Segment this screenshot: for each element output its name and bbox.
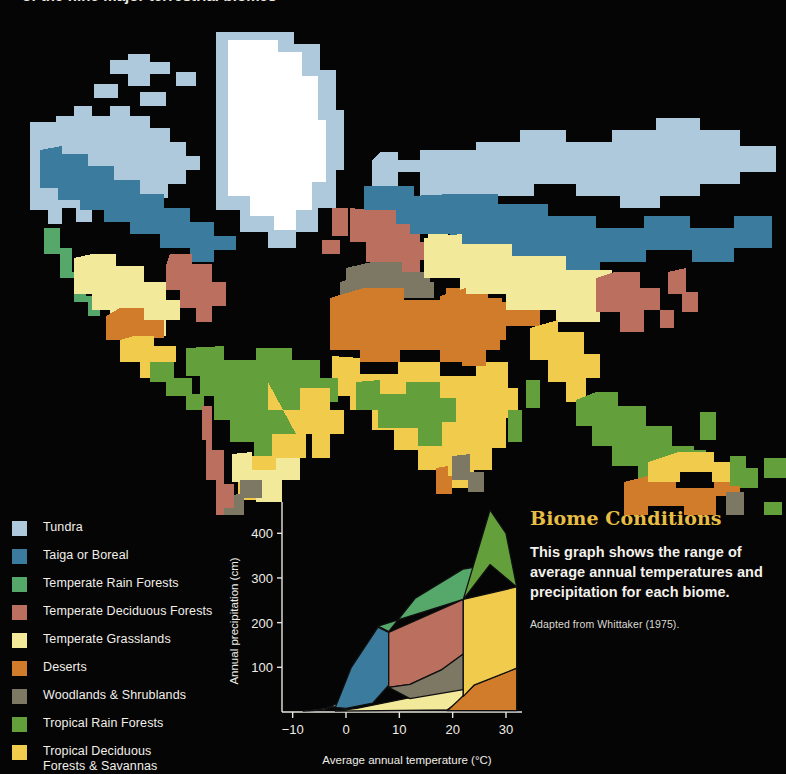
panel-title: Biome Conditions [530, 508, 780, 529]
panel-source-note: Adapted from Whittaker (1975). [530, 618, 780, 630]
legend-swatch-temperate-deciduous-forests [12, 605, 27, 620]
chart-biome-polygons [303, 510, 516, 711]
legend-item-deserts[interactable]: Deserts [10, 658, 242, 686]
legend-item-temperate-deciduous-forests[interactable]: Temperate Deciduous Forests [10, 602, 242, 630]
chart-y-axis-label: Annual precipitation (cm) [228, 557, 240, 684]
legend-swatch-deserts [12, 661, 27, 676]
chart-x-tick-label: 10 [392, 722, 406, 737]
biome-conditions-panel: Biome Conditions This graph shows the ra… [530, 508, 780, 641]
legend-label-temperate-rain-forests: Temperate Rain Forests [43, 574, 179, 591]
legend-label-woodlands-shrublands: Woodlands & Shrublands [43, 686, 186, 703]
legend-item-woodlands-shrublands[interactable]: Woodlands & Shrublands [10, 686, 242, 714]
legend-label-temperate-grasslands: Temperate Grasslands [43, 630, 171, 647]
cropped-headline-text: of the nine major terrestrial biomes [22, 0, 277, 4]
chart-x-tick-label: 30 [499, 722, 513, 737]
legend-label-tropical-deciduous-forests-savannas: Tropical DeciduousForests & Savannas [43, 742, 157, 774]
chart-y-tick-label: 200 [251, 616, 273, 631]
chart-x-tick-label: −10 [282, 722, 304, 737]
legend-item-tropical-deciduous-forests-savannas[interactable]: Tropical DeciduousForests & Savannas [10, 742, 242, 774]
chart-biome-area-taiga-or-boreal [335, 627, 388, 708]
legend-swatch-tropical-rain-forests [12, 717, 27, 732]
legend-label-deserts: Deserts [43, 658, 87, 675]
legend-label-line2: Forests & Savannas [43, 759, 157, 774]
legend-item-tropical-rain-forests[interactable]: Tropical Rain Forests [10, 714, 242, 742]
legend-swatch-woodlands-shrublands [12, 689, 27, 704]
legend-label-tundra: Tundra [43, 518, 83, 535]
legend-swatch-tundra [12, 521, 27, 536]
as-india-west-ghats [526, 380, 540, 408]
legend-item-temperate-rain-forests[interactable]: Temperate Rain Forests [10, 574, 242, 602]
legend-label-temperate-deciduous-forests: Temperate Deciduous Forests [43, 602, 212, 619]
world-biome-map [0, 10, 786, 515]
legend-item-taiga[interactable]: Taiga or Boreal [10, 546, 242, 574]
infographic-page: of the nine major terrestrial biomes [0, 0, 786, 774]
chart-y-tick-label: 400 [251, 526, 273, 541]
panel-body-text: This graph shows the range of average an… [530, 542, 780, 602]
au-east-coast-forest [730, 456, 746, 486]
af-madagascar [508, 410, 522, 442]
legend-label-tropical-rain-forests: Tropical Rain Forests [43, 714, 163, 731]
legend-item-temperate-grasslands[interactable]: Temperate Grasslands [10, 630, 242, 658]
chart-x-axis-label: Average annual temperature (°C) [322, 754, 491, 766]
chart-x-tick-label: 0 [342, 722, 349, 737]
whittaker-biome-chart: Annual precipitation (cm) 100200300400 −… [222, 496, 532, 774]
chart-x-ticks: −100102030 [282, 712, 514, 737]
chart-y-tick-label: 300 [251, 571, 273, 586]
cropped-headline: of the nine major terrestrial biomes [0, 0, 786, 10]
legend-label-line1: Tropical Deciduous [43, 744, 151, 758]
chart-x-tick-label: 20 [445, 722, 459, 737]
legend-swatch-tropical-deciduous-forests-savannas [12, 745, 27, 760]
biome-legend: Tundra Taiga or Boreal Temperate Rain Fo… [10, 518, 242, 774]
legend-swatch-temperate-grasslands [12, 633, 27, 648]
chart-y-tick-label: 100 [251, 660, 273, 675]
legend-swatch-temperate-rain-forests [12, 577, 27, 592]
chart-biome-area-tropical-rain-forests [463, 510, 516, 599]
chart-y-ticks: 100200300400 [251, 526, 282, 675]
legend-item-tundra[interactable]: Tundra [10, 518, 242, 546]
legend-label-taiga: Taiga or Boreal [43, 546, 129, 563]
legend-swatch-taiga [12, 549, 27, 564]
